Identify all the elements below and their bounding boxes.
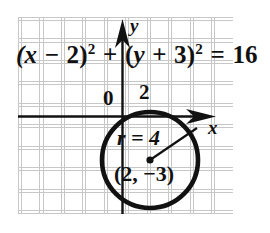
equation-exponent-1: 2 xyxy=(88,41,96,57)
equation-variable-x: x xyxy=(25,41,38,68)
circle-equation-label: (x − 2)2 + (y + 3)2 = 16 xyxy=(16,42,258,67)
radius-label: r = 4 xyxy=(117,127,160,149)
equation-number-2: 2 xyxy=(67,41,80,68)
origin-label: 0 xyxy=(103,88,114,109)
circle-graph-figure: (x − 2)2 + (y + 3)2 = 16 0 2 x y r = 4 (… xyxy=(0,0,270,233)
x-axis-label: x xyxy=(208,118,218,137)
equation-exponent-2: 2 xyxy=(195,41,203,57)
equation-open-paren-1: ( xyxy=(16,41,25,68)
equation-variable-y: y xyxy=(133,41,144,68)
x-axis xyxy=(18,109,216,124)
equation-close-paren-1: ) xyxy=(79,41,88,68)
equation-inner-plus-operator: + xyxy=(145,41,174,68)
equation-number-3: 3 xyxy=(174,41,187,68)
x-tick-label-2: 2 xyxy=(139,82,150,103)
equation-minus-operator: − xyxy=(37,41,66,68)
y-axis-label: y xyxy=(130,16,138,35)
equation-right-hand-side: 16 xyxy=(232,41,257,68)
center-coordinates-label: (2, −3) xyxy=(114,163,174,185)
equation-plus-operator: + xyxy=(96,41,125,68)
equation-equals-operator: = xyxy=(203,41,232,68)
